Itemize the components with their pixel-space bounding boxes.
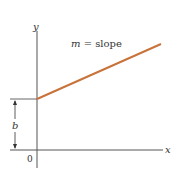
intercept-label: b xyxy=(12,120,18,131)
slope-intercept-diagram: y x 0 b m = slope xyxy=(0,0,178,176)
arrowhead-down-icon xyxy=(13,144,17,149)
y-axis-label: y xyxy=(32,21,39,32)
slope-line xyxy=(37,44,161,99)
slope-annotation: m = slope xyxy=(71,38,122,49)
x-axis-label: x xyxy=(165,144,171,155)
origin-label: 0 xyxy=(27,154,33,164)
slope-variable: m xyxy=(71,38,80,49)
slope-equation: = slope xyxy=(80,38,121,49)
arrowhead-up-icon xyxy=(13,100,17,105)
